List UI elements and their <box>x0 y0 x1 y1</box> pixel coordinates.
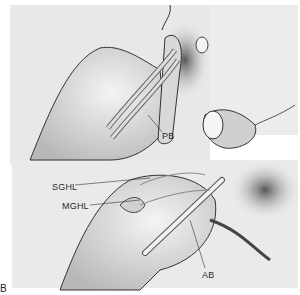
panel-letter: B <box>0 283 7 294</box>
label-pb: PB <box>162 131 174 141</box>
label-ab: AB <box>202 270 214 280</box>
shoulder-anatomy-illustration <box>0 0 300 295</box>
label-mghl: MGHL <box>62 201 89 211</box>
label-sghl: SGHL <box>52 182 77 192</box>
